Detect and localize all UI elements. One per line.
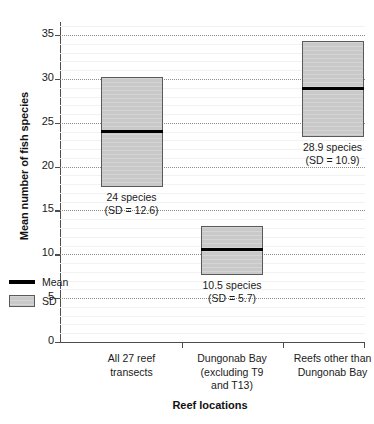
gridline-minor — [60, 307, 365, 308]
y-tick-label: 10 — [28, 246, 54, 258]
legend-label-mean: Mean — [42, 276, 68, 288]
y-tick-label: 20 — [28, 159, 54, 171]
gridline-minor — [60, 219, 365, 220]
y-tick-label: 25 — [28, 115, 54, 127]
x-category-label: Reefs other thanDungonab Bay — [281, 352, 374, 379]
y-tick-mark — [55, 167, 60, 168]
y-tick-mark — [55, 210, 60, 211]
legend-marker-sd-icon — [9, 295, 35, 307]
bar-value-label: 28.9 species(SD = 10.9) — [273, 141, 374, 167]
chart-figure: Mean number of fish species 051015202530… — [0, 0, 374, 424]
legend-item-sd: SD — [9, 291, 104, 310]
gridline-minor — [60, 324, 365, 325]
y-tick-label: 30 — [28, 71, 54, 83]
bar-value-label: 24 species(SD = 12.6) — [72, 191, 192, 217]
legend-marker-mean-icon — [9, 280, 35, 284]
x-category-label: All 27 reeftransects — [80, 352, 184, 379]
x-category-label-line: Dungonab Bay — [281, 366, 374, 380]
mean-line — [302, 87, 364, 90]
y-tick-label: 0 — [28, 334, 54, 346]
bar-sd-text: (SD = 10.9) — [273, 154, 374, 167]
y-tick-mark — [55, 123, 60, 124]
gridline-major — [60, 35, 365, 36]
x-category-label-line: All 27 reef — [80, 352, 184, 366]
bar-mean-text: 28.9 species — [273, 141, 374, 154]
legend-item-mean: Mean — [9, 272, 104, 291]
bar-sd-text: (SD = 12.6) — [72, 204, 192, 217]
mean-line — [201, 248, 263, 251]
mean-line — [101, 130, 163, 133]
y-tick-mark — [55, 254, 60, 255]
gridline-minor — [60, 316, 365, 317]
plot-area: 05101520253035 24 species(SD = 12.6)10.5… — [60, 22, 365, 342]
y-tick-label: 35 — [28, 27, 54, 39]
x-category-label-line: transects — [80, 366, 184, 380]
y-tick-mark — [55, 79, 60, 80]
x-tick-mark — [364, 342, 365, 348]
gridline-minor — [60, 26, 365, 27]
legend: Mean SD — [9, 272, 104, 310]
x-tick-mark — [182, 342, 183, 348]
x-category-label-line: and T13) — [180, 379, 284, 393]
bar-value-label: 10.5 species(SD = 5.7) — [172, 279, 292, 305]
bar-mean-text: 24 species — [72, 191, 192, 204]
legend-label-sd: SD — [42, 295, 57, 307]
x-axis-line — [60, 342, 365, 343]
y-tick-mark — [55, 342, 60, 343]
gridline-minor — [60, 333, 365, 334]
bar-sd-text: (SD = 5.7) — [172, 292, 292, 305]
x-tick-mark — [283, 342, 284, 348]
x-category-label-line: (excluding T9 — [180, 366, 284, 380]
x-category-label-line: Reefs other than — [281, 352, 374, 366]
bar-mean-text: 10.5 species — [172, 279, 292, 292]
x-category-label: Dungonab Bay(excluding T9and T13) — [180, 352, 284, 393]
x-category-label-line: Dungonab Bay — [180, 352, 284, 366]
y-tick-label: 15 — [28, 202, 54, 214]
x-axis-title: Reef locations — [55, 399, 365, 411]
y-tick-mark — [55, 35, 60, 36]
